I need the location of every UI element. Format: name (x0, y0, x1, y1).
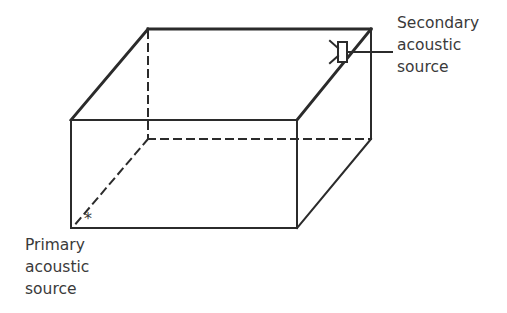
label-line: acoustic (25, 256, 89, 278)
top-edges (71, 29, 371, 120)
primary-source-label: Primary acoustic source (25, 234, 89, 300)
primary-source-marker: * (84, 209, 92, 228)
hidden-edges (73, 31, 371, 227)
front-face (71, 120, 297, 228)
label-line: source (25, 278, 89, 300)
label-line: Secondary (397, 12, 479, 34)
label-line: source (397, 56, 479, 78)
loudspeaker-icon (330, 41, 392, 63)
label-line: Primary (25, 234, 89, 256)
acoustic-room-diagram: * Secondary acoustic source Primary acou… (0, 0, 507, 313)
label-line: acoustic (397, 34, 479, 56)
secondary-source-label: Secondary acoustic source (397, 12, 479, 78)
